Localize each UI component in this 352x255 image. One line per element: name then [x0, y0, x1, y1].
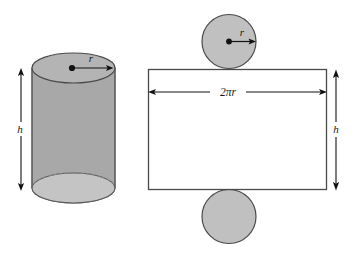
cylinder-net-figure: r h r	[0, 0, 352, 255]
net-bottom-circle	[202, 190, 256, 244]
cylinder-radius-label: r	[89, 52, 94, 64]
cylinder-diagram: r h	[13, 52, 115, 203]
cylinder-net-diagram: r 2πr h	[148, 15, 344, 244]
cylinder-height-indicator: h	[13, 68, 29, 191]
net-circumference-label: 2πr	[220, 86, 237, 98]
net-height-label: h	[333, 123, 339, 135]
net-height-indicator: h	[329, 70, 344, 191]
figure-root: r h r	[0, 0, 352, 255]
cylinder-height-label: h	[17, 123, 23, 135]
net-top-circle-radius-label: r	[240, 26, 245, 38]
